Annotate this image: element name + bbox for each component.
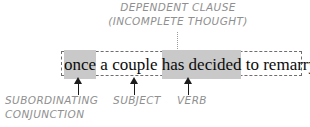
callout-label-subject: SUBJECT [109, 94, 165, 108]
dependent-clause-annotation-line2: (INCOMPLETE THOUGHT) [88, 15, 268, 29]
clause-box: once a couple has decided to remarry [61, 51, 302, 76]
clause-segment-remainder: to remarry [241, 55, 310, 74]
arrow-up-icon-subordinating-conjunction [74, 77, 83, 95]
clause-segment-subordinating-conjunction: once [64, 50, 96, 79]
clause-text: once a couple has decided to remarry [62, 52, 310, 77]
arrow-up-icon-subject [130, 77, 139, 95]
clause-segment-verb: has decided [162, 50, 242, 79]
callout-label-line2: CONJUNCTION [5, 108, 125, 122]
callout-label-line1: SUBJECT [113, 94, 161, 106]
arrow-up-icon-verb [184, 77, 193, 95]
dependent-clause-annotation: DEPENDENT CLAUSE (INCOMPLETE THOUGHT) [88, 1, 268, 28]
clause-segment-subject: a couple [96, 55, 162, 74]
dependent-clause-annotation-line1: DEPENDENT CLAUSE [88, 1, 268, 15]
dotted-vertical-line-icon [177, 32, 178, 51]
callout-label-line1: SUBORDINATING [5, 94, 98, 106]
callout-label-verb: VERB [168, 94, 216, 108]
callout-label-line1: VERB [177, 94, 207, 106]
callout-label-subordinating-conjunction: SUBORDINATING CONJUNCTION [5, 94, 125, 121]
clause-diagram: DEPENDENT CLAUSE (INCOMPLETE THOUGHT) on… [0, 0, 310, 127]
